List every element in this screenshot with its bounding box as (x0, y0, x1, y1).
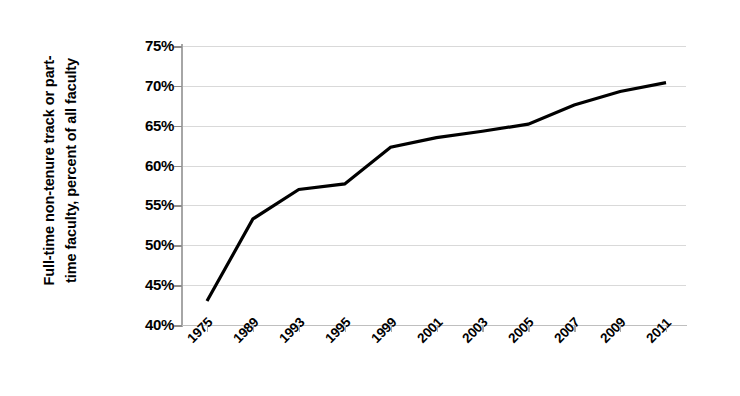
y-tick-label-40%: 40% (114, 317, 174, 332)
gridline-55% (181, 205, 686, 206)
y-tick-mark-70% (174, 86, 182, 88)
x-tick-mark-1999 (391, 325, 392, 332)
y-tick-label-50%: 50% (114, 237, 174, 252)
y-tick-label-70%: 70% (114, 78, 174, 93)
y-tick-mark-60% (174, 166, 182, 168)
plot-frame (181, 46, 686, 325)
y-tick-mark-75% (174, 46, 182, 48)
y-axis-title-line-2: time faculty, percent of all faculty (60, 55, 82, 285)
y-tick-label-75%: 75% (114, 38, 174, 53)
x-tick-mark-2003 (482, 325, 483, 332)
gridline-65% (181, 126, 686, 127)
y-tick-mark-50% (174, 245, 182, 247)
x-axis-tick-labels: 1975198919931995199920012003200520072009… (0, 336, 740, 396)
y-axis-title-line-1: Full-time non-tenure track or part- (38, 55, 60, 285)
y-tick-label-60%: 60% (114, 158, 174, 173)
gridline-60% (181, 166, 686, 167)
x-tick-mark-2005 (528, 325, 529, 332)
line-chart: Full-time non-tenure track or part- time… (0, 0, 740, 396)
y-tick-mark-65% (174, 126, 182, 128)
y-tick-label-45%: 45% (114, 277, 174, 292)
x-tick-mark-1989 (253, 325, 254, 332)
x-tick-mark-2001 (437, 325, 438, 332)
plot-area (181, 46, 686, 325)
x-tick-mark-1975 (207, 325, 208, 332)
gridline-45% (181, 285, 686, 286)
y-axis-title: Full-time non-tenure track or part- time… (0, 0, 120, 340)
x-tick-mark-1993 (299, 325, 300, 332)
y-tick-mark-45% (174, 285, 182, 287)
x-tick-mark-2009 (620, 325, 621, 332)
y-tick-label-65%: 65% (114, 118, 174, 133)
y-tick-mark-55% (174, 205, 182, 207)
x-tick-mark-1995 (345, 325, 346, 332)
y-tick-label-55%: 55% (114, 197, 174, 212)
gridline-75% (181, 46, 686, 47)
y-tick-mark-40% (174, 325, 182, 327)
gridline-50% (181, 245, 686, 246)
gridline-70% (181, 86, 686, 87)
x-tick-mark-2007 (574, 325, 575, 332)
x-tick-mark-2011 (666, 325, 667, 332)
